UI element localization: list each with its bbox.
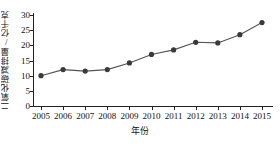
x-tick-mark xyxy=(129,107,130,110)
x-tick-mark xyxy=(174,107,175,110)
x-tick-mark xyxy=(63,107,64,110)
data-point-marker xyxy=(127,60,132,65)
y-tick-mark xyxy=(30,15,33,16)
data-point-marker xyxy=(61,67,66,72)
y-tick-mark xyxy=(30,91,33,92)
data-point-marker xyxy=(259,20,264,25)
x-tick-mark xyxy=(85,107,86,110)
y-tick-mark xyxy=(30,106,33,107)
data-point-marker xyxy=(193,40,198,45)
data-point-marker xyxy=(83,69,88,74)
x-tick-mark xyxy=(107,107,108,110)
line-chart: 二氧化碳减排量/亿千克 051015202530 200520062007200… xyxy=(0,0,280,146)
y-tick-mark xyxy=(30,61,33,62)
x-tick-mark xyxy=(262,107,263,110)
x-tick-mark xyxy=(218,107,219,110)
data-point-marker xyxy=(149,52,154,57)
x-tick-mark xyxy=(196,107,197,110)
y-tick-mark xyxy=(30,76,33,77)
y-tick-mark xyxy=(30,30,33,31)
y-tick-mark xyxy=(30,45,33,46)
x-tick-mark xyxy=(41,107,42,110)
data-point-marker xyxy=(215,40,220,45)
data-point-marker xyxy=(105,67,110,72)
x-tick-mark xyxy=(152,107,153,110)
data-point-marker xyxy=(237,32,242,37)
series-line xyxy=(41,23,262,76)
x-tick-mark xyxy=(240,107,241,110)
data-point-marker xyxy=(38,73,43,78)
data-series-layer xyxy=(0,0,280,146)
data-point-marker xyxy=(171,47,176,52)
